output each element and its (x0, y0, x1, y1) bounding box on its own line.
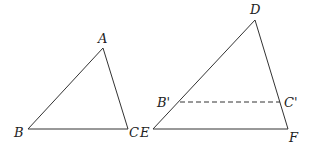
triangle-def (153, 20, 288, 129)
diagram-svg: ABCDEFB'C' (0, 0, 317, 147)
vertex-label-b-prime: B' (156, 95, 170, 110)
vertex-label-a: A (97, 31, 107, 46)
vertex-label-b: B (13, 125, 24, 140)
vertex-label-c: C (129, 125, 139, 140)
geometry-diagram: ABCDEFB'C' (0, 0, 317, 147)
vertex-label-e: E (139, 125, 150, 140)
edge-ca (103, 48, 128, 129)
edge-ab (28, 48, 103, 129)
triangle-abc (28, 48, 128, 129)
vertex-label-d: D (249, 2, 261, 17)
edge-de (153, 20, 255, 129)
vertex-label-c-prime: C' (284, 95, 298, 110)
edge-fd (255, 20, 288, 129)
vertex-label-f: F (288, 130, 299, 145)
